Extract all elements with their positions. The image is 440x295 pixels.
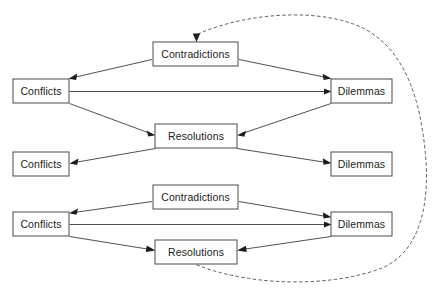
diagram-canvas: Contradictions Conflicts Dilemmas Resolu… [0, 0, 440, 295]
node-dilemmas-2-label: Dilemmas [338, 158, 385, 170]
node-resolutions-2-label: Resolutions [168, 246, 224, 258]
node-dilemmas-1[interactable]: Dilemmas [331, 79, 392, 103]
edge-contradictions1-to-conflicts1 [69, 60, 153, 80]
node-resolutions-1[interactable]: Resolutions [155, 124, 237, 148]
edge-contradictions2-to-dilemmas3 [239, 202, 332, 219]
flow-diagram: Contradictions Conflicts Dilemmas Resolu… [0, 0, 440, 295]
node-contradictions-1[interactable]: Contradictions [153, 42, 238, 66]
node-resolutions-1-label: Resolutions [168, 130, 224, 142]
node-conflicts-2[interactable]: Conflicts [13, 152, 69, 176]
node-conflicts-2-label: Conflicts [20, 158, 61, 170]
node-dilemmas-3[interactable]: Dilemmas [331, 212, 392, 236]
node-resolutions-2[interactable]: Resolutions [155, 240, 237, 264]
node-conflicts-1-label: Conflicts [20, 85, 61, 97]
node-contradictions-2-label: Contradictions [161, 191, 230, 203]
edge-contradictions1-to-dilemmas1 [239, 60, 332, 81]
edge-contradictions2-to-conflicts3 [69, 202, 152, 215]
node-dilemmas-2[interactable]: Dilemmas [331, 152, 392, 176]
edge-conflicts3-to-resolutions2 [70, 237, 156, 252]
edge-resolutions1-to-dilemmas2 [237, 149, 332, 165]
node-dilemmas-1-label: Dilemmas [338, 85, 385, 97]
edge-conflicts1-to-dilemmas1 [70, 88, 332, 94]
edge-resolutions1-to-conflicts2 [70, 149, 156, 165]
node-dilemmas-3-label: Dilemmas [338, 218, 385, 230]
node-conflicts-1[interactable]: Conflicts [13, 79, 69, 103]
edge-dilemmas3-to-resolutions2 [237, 237, 331, 253]
edge-conflicts3-to-dilemmas3 [70, 221, 332, 227]
node-conflicts-3-label: Conflicts [20, 218, 61, 230]
edge-dilemmas1-to-resolutions1 [237, 104, 331, 137]
node-contradictions-2[interactable]: Contradictions [153, 185, 238, 209]
node-contradictions-1-label: Contradictions [161, 48, 230, 60]
edge-conflicts1-to-resolutions1 [70, 104, 156, 137]
node-conflicts-3[interactable]: Conflicts [13, 212, 69, 236]
